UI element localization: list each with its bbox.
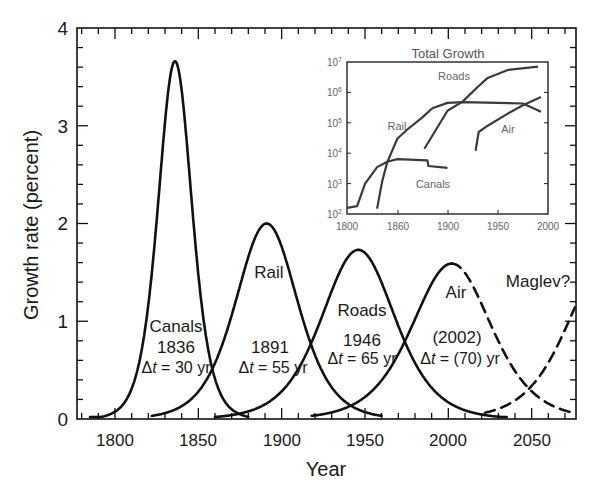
inset-label-rail: Rail [388, 120, 407, 132]
y-tick-label-3: 3 [57, 116, 68, 137]
inset-label-roads: Roads [438, 70, 470, 82]
rail-delta: Δt = 55 yr [239, 359, 309, 376]
maglev-label: Maglev? [506, 272, 570, 291]
x-tick-label-1850: 1850 [179, 431, 217, 450]
roads-peak-year: 1946 [343, 331, 381, 350]
rail-label: Rail [254, 263, 283, 282]
inset-y-label-1e2: 102 [327, 208, 342, 220]
canals-peak-year: 1836 [157, 338, 195, 357]
y-tick-label-4: 4 [57, 18, 68, 39]
inset-y-label-1e3: 103 [327, 178, 342, 190]
x-tick-label-1900: 1900 [263, 431, 301, 450]
inset-y-label-1e4: 104 [327, 147, 342, 159]
y-tick-label-1: 1 [57, 311, 68, 332]
chart-figure: 0 1 2 3 4 1800 1850 1900 1950 2000 2050 … [0, 0, 595, 493]
y-tick-labels: 0 1 2 3 4 [57, 18, 68, 430]
inset-y-label-1e6: 106 [327, 86, 342, 98]
inset-x-label-4: 2000 [537, 221, 560, 232]
inset-background [347, 62, 548, 214]
inset-total-growth: Total Growth 102 103 104 105 106 107 180… [327, 46, 560, 232]
roads-delta: Δt = 65 yr [328, 350, 398, 367]
inset-x-tick-labels: 1800 1860 1900 1950 2000 [336, 221, 560, 232]
air-delta: Δt = (70) yr [420, 350, 500, 367]
inset-x-label-1: 1860 [387, 221, 410, 232]
x-tick-label-1950: 1950 [346, 431, 384, 450]
x-tick-label-1800: 1800 [96, 431, 134, 450]
inset-label-canals: Canals [416, 178, 451, 190]
inset-label-air: Air [501, 123, 515, 135]
curve-annotations: Canals 1836 Δt = 30 yr Rail 1891 Δt = 55… [142, 263, 571, 376]
y-tick-label-2: 2 [57, 213, 68, 234]
x-tick-label-2050: 2050 [513, 431, 551, 450]
x-axis-title: Year [306, 458, 347, 480]
air-label: Air [446, 283, 467, 302]
canals-label: Canals [150, 317, 203, 336]
inset-x-label-3: 1950 [487, 221, 510, 232]
rail-peak-year: 1891 [251, 338, 289, 357]
inset-y-label-1e5: 105 [327, 117, 342, 129]
y-tick-label-0: 0 [57, 409, 68, 430]
roads-label: Roads [337, 301, 386, 320]
canals-delta: Δt = 30 yr [142, 359, 212, 376]
inset-y-label-1e7: 107 [327, 56, 342, 68]
air-peak-year: (2002) [432, 328, 481, 347]
inset-x-label-0: 1800 [336, 221, 359, 232]
inset-y-tick-labels: 102 103 104 105 106 107 [327, 56, 342, 220]
y-axis-title: Growth rate (percent) [20, 130, 42, 320]
inset-x-label-2: 1900 [437, 221, 460, 232]
x-tick-label-2000: 2000 [429, 431, 467, 450]
x-tick-labels: 1800 1850 1900 1950 2000 2050 [96, 431, 551, 450]
inset-title: Total Growth [412, 46, 485, 61]
